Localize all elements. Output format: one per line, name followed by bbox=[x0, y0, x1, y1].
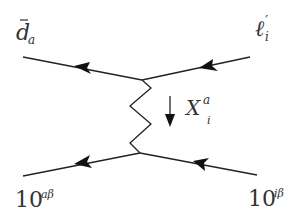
label-top-right-subscript: i bbox=[265, 30, 269, 44]
label-bottom-left: 10 bbox=[15, 187, 43, 212]
label-bottom-right: 10 bbox=[248, 186, 276, 211]
down-arrow-icon bbox=[165, 96, 175, 127]
label-mediator: X bbox=[184, 96, 201, 120]
top-left-fermion-line bbox=[23, 57, 142, 80]
label-mediator-superscript: a bbox=[203, 93, 210, 107]
bottom-left-fermion-line bbox=[23, 153, 140, 176]
label-mediator-subscript: i bbox=[207, 114, 211, 127]
bottom-right-fermion-line bbox=[140, 153, 257, 175]
label-bottom-left-superscript: aβ bbox=[41, 188, 54, 201]
label-top-right: ℓ bbox=[255, 16, 265, 41]
arrowhead-left-icon bbox=[193, 158, 209, 171]
label-top-right-prime: ′ bbox=[265, 13, 268, 29]
top-right-fermion-line bbox=[142, 57, 250, 80]
feynman-diagram: d a ℓ ′ i X a i 10 aβ 10 iβ bbox=[0, 0, 298, 221]
boson-propagator-zigzag bbox=[130, 80, 151, 153]
label-bottom-right-superscript: iβ bbox=[274, 187, 284, 200]
label-top-left-subscript: a bbox=[28, 33, 35, 47]
